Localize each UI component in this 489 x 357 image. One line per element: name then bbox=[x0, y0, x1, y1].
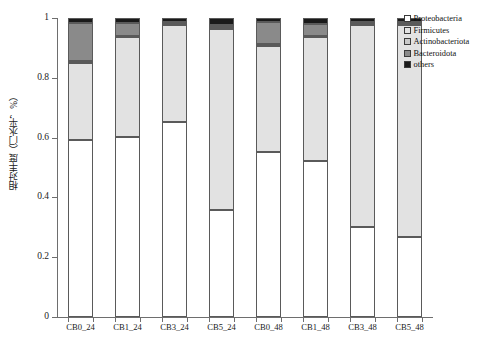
bar-segment-firmicutes bbox=[68, 63, 93, 140]
x-tick-label-cb5_48: CB5_48 bbox=[380, 322, 440, 332]
legend-item-actinobacteriota: Actinobacteriota bbox=[404, 36, 489, 47]
y-axis-line bbox=[57, 18, 58, 318]
y-tick-label-wrap: 0.2 bbox=[0, 252, 52, 262]
legend-label: others bbox=[414, 59, 434, 70]
bar-segment-proteobacteria bbox=[68, 140, 93, 317]
y-tick-label-wrap: 0.8 bbox=[0, 73, 52, 83]
bar-cb1_24 bbox=[115, 18, 140, 317]
bar-cb1_48 bbox=[303, 18, 328, 317]
y-tick-label: 0.2 bbox=[37, 252, 49, 262]
bar-segment-firmicutes bbox=[162, 25, 187, 122]
y-tick-label-wrap: 0.6 bbox=[0, 133, 52, 143]
bar-segment-firmicutes bbox=[303, 37, 328, 161]
bar-segment-firmicutes bbox=[209, 29, 234, 210]
legend-swatch-icon bbox=[404, 38, 411, 45]
y-tick-mark bbox=[52, 78, 57, 79]
bar-segment-bacteroidota bbox=[350, 22, 375, 24]
bottom-caption bbox=[0, 346, 489, 357]
bar-segment-firmicutes bbox=[115, 37, 140, 137]
y-tick-mark bbox=[52, 317, 57, 318]
bar-segment-actinobacteriota bbox=[68, 61, 93, 63]
bar-segment-actinobacteriota bbox=[303, 36, 328, 38]
y-tick-mark bbox=[52, 257, 57, 258]
bar-segment-firmicutes bbox=[256, 46, 281, 152]
legend-label: Bacteroidota bbox=[414, 48, 457, 59]
legend-swatch-icon bbox=[404, 50, 411, 57]
y-tick-label: 1 bbox=[44, 13, 49, 23]
legend-item-firmicutes: Firmicutes bbox=[404, 25, 489, 36]
legend-label: Actinobacteriota bbox=[414, 36, 470, 47]
legend-label: Proteobacteria bbox=[414, 13, 462, 24]
y-tick-label: 0.8 bbox=[37, 73, 49, 83]
bar-segment-actinobacteriota bbox=[115, 36, 140, 38]
bar-segment-proteobacteria bbox=[350, 227, 375, 317]
bar-segment-actinobacteriota bbox=[209, 27, 234, 29]
bar-cb3_24 bbox=[162, 18, 187, 317]
bar-segment-actinobacteriota bbox=[256, 44, 281, 46]
y-tick-mark bbox=[52, 18, 57, 19]
bar-segment-others bbox=[256, 18, 281, 22]
bar-segment-bacteroidota bbox=[68, 23, 93, 61]
y-tick-mark bbox=[52, 138, 57, 139]
bar-segment-bacteroidota bbox=[303, 24, 328, 36]
legend-item-bacteroidota: Bacteroidota bbox=[404, 48, 489, 59]
bar-segment-bacteroidota bbox=[162, 22, 187, 24]
bar-segment-proteobacteria bbox=[162, 122, 187, 317]
bar-segment-firmicutes bbox=[350, 25, 375, 227]
chart-legend: ProteobacteriaFirmicutesActinobacteriota… bbox=[404, 13, 489, 71]
y-tick-label-wrap: 0.4 bbox=[0, 192, 52, 202]
y-tick-label: 0.4 bbox=[37, 192, 49, 202]
x-axis-line bbox=[57, 317, 433, 318]
y-tick-label: 0 bbox=[44, 312, 49, 322]
bar-segment-others bbox=[68, 18, 93, 23]
legend-swatch-icon bbox=[404, 27, 411, 34]
bar-segment-proteobacteria bbox=[303, 161, 328, 317]
bar-segment-proteobacteria bbox=[256, 152, 281, 317]
bar-segment-proteobacteria bbox=[397, 237, 422, 317]
y-tick-label: 0.6 bbox=[37, 133, 49, 143]
bar-cb0_48 bbox=[256, 18, 281, 317]
legend-item-proteobacteria: Proteobacteria bbox=[404, 13, 489, 24]
bar-segment-proteobacteria bbox=[115, 137, 140, 317]
legend-item-others: others bbox=[404, 59, 489, 70]
bar-segment-others bbox=[115, 18, 140, 23]
bar-segment-proteobacteria bbox=[209, 210, 234, 317]
legend-swatch-icon bbox=[404, 61, 411, 68]
y-tick-label-wrap: 0 bbox=[0, 312, 52, 322]
bar-segment-others bbox=[209, 18, 234, 25]
bar-segment-others bbox=[350, 18, 375, 22]
stacked-bar-chart: 相对丰度（门水平，%） 00.20.40.60.81 CB0_24CB1_24C… bbox=[0, 0, 489, 357]
bar-segment-bacteroidota bbox=[115, 23, 140, 36]
bar-cb0_24 bbox=[68, 18, 93, 317]
legend-swatch-icon bbox=[404, 15, 411, 22]
bar-cb3_48 bbox=[350, 18, 375, 317]
bar-segment-others bbox=[162, 18, 187, 22]
legend-label: Firmicutes bbox=[414, 25, 450, 36]
bar-segment-others bbox=[303, 18, 328, 24]
bar-cb5_24 bbox=[209, 18, 234, 317]
bar-segment-bacteroidota bbox=[209, 25, 234, 27]
y-tick-label-wrap: 1 bbox=[0, 13, 52, 23]
bar-segment-bacteroidota bbox=[256, 22, 281, 44]
y-tick-mark bbox=[52, 197, 57, 198]
